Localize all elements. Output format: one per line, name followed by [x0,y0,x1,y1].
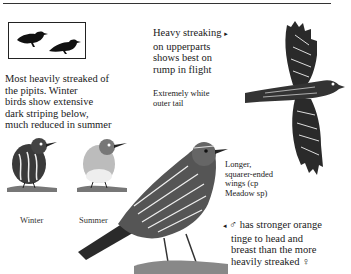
upperparts-note: Heavy streaking ▸ on upperparts shows be… [153,27,228,75]
bird-silhouette-icon [9,23,85,58]
pointer-left-icon: ◂ [223,222,227,230]
silhouette-box [8,22,86,59]
winter-label: Winter [20,215,43,225]
wings-note: Longer, squarer-ended wings (cp Meadow s… [225,160,273,198]
top-rule [3,3,331,4]
tail-note: Extremely white outer tail [153,89,209,108]
winter-pipit-illustration [5,138,60,200]
male-note: ◂ ♂ has stronger orange tinge to head an… [223,219,322,267]
standing-pipit-illustration [78,134,228,274]
streaked-note: Most heavily streaked of the pipits. Win… [5,73,111,131]
